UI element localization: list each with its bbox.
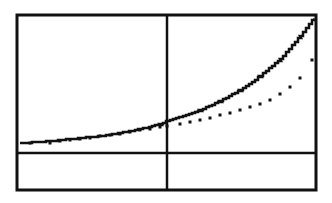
dotted-curve-point bbox=[59, 140, 62, 143]
dotted-curve-point bbox=[289, 86, 292, 89]
dotted-curve-point bbox=[189, 121, 192, 124]
dotted-curve-point bbox=[29, 142, 32, 145]
dotted-curve-point bbox=[249, 106, 252, 109]
dotted-curve-point bbox=[149, 128, 152, 131]
dotted-curve-point bbox=[129, 131, 132, 134]
dotted-curve-point bbox=[299, 77, 302, 80]
dotted-curve bbox=[29, 59, 314, 145]
dotted-curve-point bbox=[159, 126, 162, 129]
dotted-curve-point bbox=[109, 134, 112, 137]
dotted-curve-point bbox=[99, 135, 102, 138]
dotted-curve-point bbox=[166, 125, 169, 128]
dotted-curve-point bbox=[89, 137, 92, 140]
dotted-curve-point bbox=[279, 93, 282, 96]
dotted-curve-point bbox=[69, 139, 72, 142]
dotted-curve-point bbox=[229, 112, 232, 115]
graph-window bbox=[0, 0, 332, 203]
dotted-curve-point bbox=[79, 138, 82, 141]
dotted-curve-point bbox=[259, 103, 262, 106]
dotted-curve-point bbox=[209, 117, 212, 120]
dotted-curve-point bbox=[239, 109, 242, 112]
dotted-curve-point bbox=[119, 133, 122, 136]
dotted-curve-point bbox=[311, 59, 314, 62]
dotted-curve-point bbox=[179, 123, 182, 126]
dotted-curve-point bbox=[49, 142, 52, 145]
dotted-curve-point bbox=[269, 99, 272, 102]
dotted-curve-point bbox=[219, 114, 222, 117]
dotted-curve-point bbox=[139, 129, 142, 132]
dotted-curve-point bbox=[199, 119, 202, 122]
plot-area bbox=[0, 0, 332, 203]
